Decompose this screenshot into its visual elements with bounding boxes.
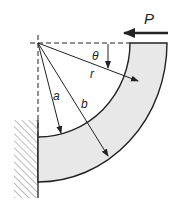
fixed-wall-support bbox=[14, 120, 38, 198]
curved-beam-diagram: P θ r a b bbox=[0, 0, 176, 212]
curved-beam bbox=[38, 43, 167, 182]
inner-radius-a-arrow bbox=[38, 43, 61, 133]
outer-radius-label: b bbox=[81, 97, 88, 111]
inner-radius-label: a bbox=[53, 89, 60, 103]
radius-r-arrow bbox=[38, 43, 138, 81]
angle-label: θ bbox=[92, 49, 99, 63]
force-label: P bbox=[144, 10, 154, 27]
radius-label: r bbox=[90, 67, 95, 81]
